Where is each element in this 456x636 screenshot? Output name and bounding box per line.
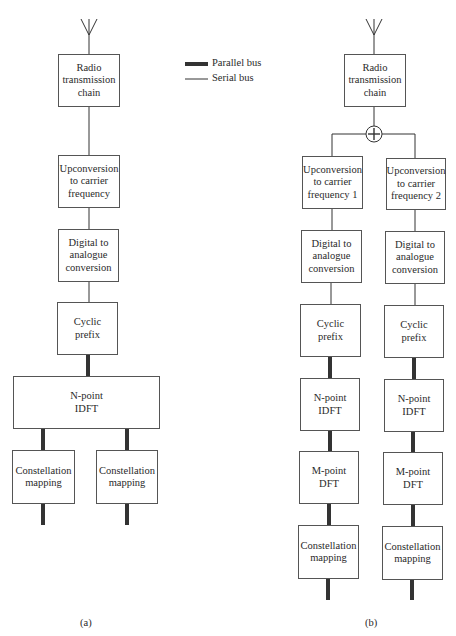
block-upconversion-b-1: Upconversion to carrier frequency 1 [302,156,363,209]
block-label: Digital to analogue conversion [65,237,111,275]
block-constellation-mapping-a-1: Constellation mapping [12,450,75,504]
legend-parallel-bus-label: Parallel bus [212,57,261,68]
block-upconversion-b-2: Upconversion to carrier frequency 2 [386,158,446,210]
block-radio-transmission-chain-b: Radio transmission chain [344,54,406,107]
block-constellation-mapping-a-2: Constellation mapping [96,450,158,504]
block-constellation-mapping-b-2: Constellation mapping [382,526,443,580]
block-label: Constellation mapping [16,465,72,490]
block-m-point-dft-b-1: M-point DFT [299,451,359,504]
legend-serial-bus-label: Serial bus [212,72,254,83]
serial-link [332,134,366,156]
block-label: M-point DFT [312,465,346,490]
block-n-point-idft-a: N-point IDFT [13,376,160,429]
antenna-icon-b [366,19,382,54]
block-label: N-point IDFT [70,390,103,415]
block-label: Cyclic prefix [400,319,427,344]
block-label: Digital to analogue conversion [308,238,354,276]
block-label: Constellation mapping [99,465,155,490]
block-cyclic-prefix-b-2: Cyclic prefix [384,305,444,358]
block-label: Radio transmission chain [348,62,401,100]
block-label: M-point DFT [396,466,430,491]
antenna-icon-a [81,19,97,54]
block-label: Digital to analogue conversion [392,239,438,277]
serial-link [382,134,415,158]
caption-b: (b) [365,617,377,628]
block-label: Cyclic prefix [317,318,344,343]
block-label: Constellation mapping [385,541,441,566]
block-cyclic-prefix-b-1: Cyclic prefix [300,304,361,357]
block-dac-b-2: Digital to analogue conversion [385,231,445,284]
block-label: N-point IDFT [398,393,431,418]
block-label: Constellation mapping [301,540,357,565]
block-label: Upconversion to carrier frequency 1 [303,164,362,202]
block-label: Radio transmission chain [62,62,115,100]
block-upconversion-a: Upconversion to carrier frequency [58,155,120,208]
block-label: Upconversion to carrier frequency 2 [387,165,446,203]
block-label: Upconversion to carrier frequency [60,163,119,201]
block-radio-transmission-chain-a: Radio transmission chain [58,54,120,107]
block-label: Cyclic prefix [74,316,101,341]
block-label: N-point IDFT [314,392,347,417]
block-cyclic-prefix-a: Cyclic prefix [57,302,118,355]
block-dac-b-1: Digital to analogue conversion [301,230,362,283]
caption-a: (a) [80,617,92,628]
block-n-point-idft-b-1: N-point IDFT [300,378,360,431]
block-dac-a: Digital to analogue conversion [58,229,119,282]
block-n-point-idft-b-2: N-point IDFT [384,379,444,432]
adder-icon [366,126,382,142]
block-m-point-dft-b-2: M-point DFT [383,452,443,505]
block-constellation-mapping-b-1: Constellation mapping [298,525,359,579]
